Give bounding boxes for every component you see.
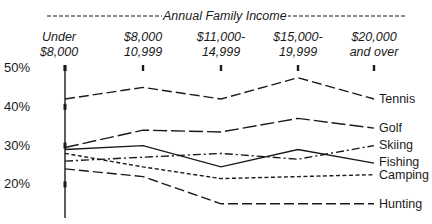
series-label-fishing: Fishing bbox=[379, 155, 419, 169]
series-label-skiing: Skiing bbox=[379, 138, 413, 152]
series-label-tennis: Tennis bbox=[379, 92, 415, 106]
series-line-hunting bbox=[65, 169, 374, 204]
series-line-fishing bbox=[65, 146, 374, 167]
line-chart bbox=[0, 0, 432, 224]
y-tick-mark bbox=[64, 104, 67, 110]
series-line-tennis bbox=[65, 78, 374, 99]
series-line-skiing bbox=[65, 146, 374, 162]
category-tick-mark bbox=[297, 65, 299, 71]
y-tick-mark bbox=[64, 181, 67, 187]
category-tick-mark bbox=[142, 65, 144, 71]
series-label-hunting: Hunting bbox=[379, 197, 422, 211]
category-tick-mark bbox=[220, 65, 222, 71]
category-tick-mark bbox=[373, 65, 375, 71]
series-line-golf bbox=[65, 118, 374, 147]
category-tick-mark bbox=[64, 65, 66, 71]
series-label-camping: Camping bbox=[379, 168, 429, 182]
series-label-golf: Golf bbox=[379, 121, 402, 135]
